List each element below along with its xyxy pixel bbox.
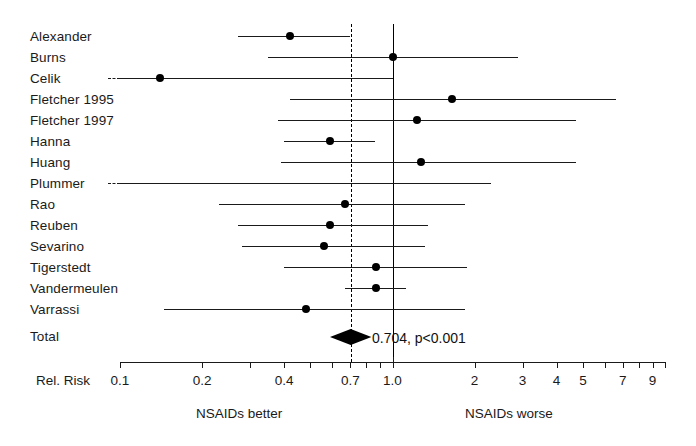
x-axis-tick-label: 0.7 (330, 373, 370, 388)
x-axis-tick (120, 362, 121, 368)
ci-truncation-dashes (108, 183, 120, 184)
x-axis-tick (202, 362, 203, 368)
study-label-celik: Celik (30, 72, 61, 86)
point-estimate-marker (417, 158, 425, 166)
x-axis-tick-label: 0.2 (182, 373, 222, 388)
x-axis-tick (557, 362, 558, 368)
point-estimate-marker (448, 95, 456, 103)
x-axis-tick-label: 9 (633, 373, 673, 388)
x-axis-tick-label: 5 (563, 373, 603, 388)
x-axis-tick-label: 0.4 (264, 373, 304, 388)
point-estimate-marker (326, 221, 334, 229)
point-estimate-marker (413, 116, 421, 124)
point-estimate-marker (341, 200, 349, 208)
point-estimate-marker (372, 263, 380, 271)
pooled-reference-line (351, 24, 352, 362)
point-estimate-marker (389, 53, 397, 61)
forest-plot: Alexander Burns Celik Fletcher 1995 Flet… (0, 0, 696, 446)
study-label-vandermeulen: Vandermeulen (30, 282, 118, 296)
x-axis-tick (605, 362, 606, 368)
x-axis-tick (623, 362, 624, 368)
footer-right-label: NSAIDs worse (465, 406, 553, 421)
footer-left-label: NSAIDs better (196, 406, 282, 421)
total-annotation: 0.704, p<0.001 (372, 330, 466, 346)
x-axis-tick (653, 362, 654, 368)
point-estimate-marker (156, 74, 164, 82)
x-axis-tick (523, 362, 524, 368)
study-label-huang: Huang (30, 156, 70, 170)
pooled-effect-diamond (330, 329, 371, 345)
confidence-interval-line (281, 162, 576, 163)
study-label-varrassi: Varrassi (30, 303, 79, 317)
x-axis-tick (639, 362, 640, 368)
point-estimate-marker (302, 305, 310, 313)
study-label-tigerstedt: Tigerstedt (30, 261, 91, 275)
x-axis-tick (665, 362, 666, 368)
point-estimate-marker (320, 242, 328, 250)
study-label-plummer: Plummer (30, 177, 85, 191)
study-label-fletcher-1997: Fletcher 1997 (30, 114, 114, 128)
study-label-sevarino: Sevarino (30, 240, 84, 254)
x-axis-tick-label: 1.0 (373, 373, 413, 388)
ci-truncation-dashes (108, 78, 120, 79)
x-axis-tick (366, 362, 367, 368)
study-label-alexander: Alexander (30, 30, 92, 44)
study-label-rao: Rao (30, 198, 55, 212)
confidence-interval-line (164, 309, 465, 310)
confidence-interval-line (278, 120, 576, 121)
x-axis-tick (380, 362, 381, 368)
study-label-total: Total (30, 330, 59, 344)
confidence-interval-line (120, 183, 491, 184)
study-label-hanna: Hanna (30, 135, 70, 149)
x-axis-tick (393, 357, 394, 368)
x-axis-title: Rel. Risk (36, 373, 90, 388)
x-axis-tick (350, 362, 351, 368)
x-axis-tick (250, 362, 251, 368)
point-estimate-marker (326, 137, 334, 145)
study-label-reuben: Reuben (30, 219, 78, 233)
x-axis-tick (332, 362, 333, 368)
x-axis-tick (475, 362, 476, 368)
study-label-burns: Burns (30, 51, 66, 65)
point-estimate-marker (372, 284, 380, 292)
x-axis-tick (583, 362, 584, 368)
point-estimate-marker (286, 32, 294, 40)
study-label-fletcher-1995: Fletcher 1995 (30, 93, 114, 107)
x-axis-tick (310, 362, 311, 368)
x-axis-tick (284, 362, 285, 368)
x-axis-tick-label: 0.1 (100, 373, 140, 388)
confidence-interval-line (242, 246, 426, 247)
confidence-interval-line (238, 36, 351, 37)
x-axis-tick-label: 2 (455, 373, 495, 388)
null-reference-line (393, 24, 394, 362)
